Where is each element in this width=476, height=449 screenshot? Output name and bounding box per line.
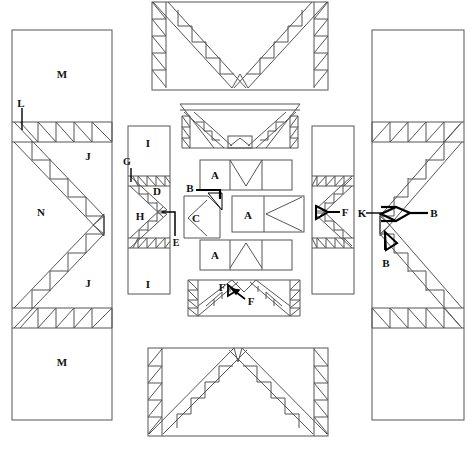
upper-small-v-right-ladder <box>266 116 298 148</box>
label-core-A-middle: A <box>244 209 252 221</box>
top-v-right-ladder <box>314 2 328 88</box>
label-inner-left-G: G <box>123 156 131 167</box>
left-panel-upper-band-web <box>20 122 112 142</box>
label-core-A-bottom: A <box>211 249 219 261</box>
label-left-N: N <box>37 206 45 218</box>
upper-small-v-right-diagonal <box>248 112 296 148</box>
left-panel-diagonal-upper <box>14 122 104 236</box>
label-left-L: L <box>17 97 24 109</box>
bottom-l-left-diagonal <box>149 348 247 434</box>
top-v-left-ladder <box>152 2 166 88</box>
core-bay-middle-left <box>184 196 220 238</box>
right-outer-panel <box>366 30 464 420</box>
core-bay-middle-right <box>232 196 304 232</box>
bottom-l-right-diagonal <box>229 348 327 434</box>
arrow-marker-B-upper <box>381 207 428 221</box>
label-inner-left-I-top: I <box>146 137 150 149</box>
top-v-right-diagonal <box>234 2 327 88</box>
lower-small-lambda-truss <box>188 280 300 316</box>
bottom-l-apex-zigzag <box>234 348 242 362</box>
label-right-K: K <box>358 207 367 219</box>
label-inner-left-H: H <box>136 210 145 222</box>
label-left-J-upper: J <box>85 150 91 162</box>
label-inner-left-D: D <box>153 185 161 197</box>
left-panel-diagonal-lower <box>14 214 104 328</box>
framing-plan-svg: M L J N J M I G D H E I F K B B A B C A … <box>0 0 476 449</box>
label-inner-left-I-bottom: I <box>146 278 150 290</box>
bottom-center-lambda-truss <box>148 348 328 436</box>
label-left-J-lower: J <box>85 277 91 289</box>
lower-small-right-ladder <box>290 280 300 316</box>
label-right-B-lower: B <box>382 257 390 269</box>
label-layer: M L J N J M I G D H E I F K B B A B C A … <box>17 68 438 368</box>
label-inner-right-F: F <box>342 206 349 218</box>
upper-small-v-left-diagonal <box>184 112 232 148</box>
left-panel-apex-zigzag <box>93 216 104 234</box>
top-v-left-diagonal <box>153 2 246 88</box>
arrow-marker-B-lower <box>385 232 397 250</box>
left-panel-lower-band-web <box>20 308 112 328</box>
label-lower-F-right: F <box>248 295 255 307</box>
label-core-A-top: A <box>211 169 219 181</box>
label-lower-F-left: F <box>219 281 226 293</box>
pointer-E <box>162 212 175 236</box>
lower-small-left-ladder <box>188 280 198 316</box>
label-inner-left-E: E <box>173 237 180 248</box>
upper-small-v-left-ladder <box>182 116 214 148</box>
upper-small-v-truss <box>180 104 300 148</box>
diagram-canvas: M L J N J M I G D H E I F K B B A B C A … <box>0 0 476 449</box>
lower-small-right-diagonal <box>250 280 290 316</box>
label-right-B-upper: B <box>430 207 438 219</box>
label-core-B: B <box>186 182 194 194</box>
label-left-M-bottom: M <box>57 356 68 368</box>
label-core-C: C <box>192 212 200 224</box>
pointer-B-core <box>196 190 220 199</box>
top-center-v-truss <box>152 2 328 90</box>
label-left-M-top: M <box>57 68 68 80</box>
